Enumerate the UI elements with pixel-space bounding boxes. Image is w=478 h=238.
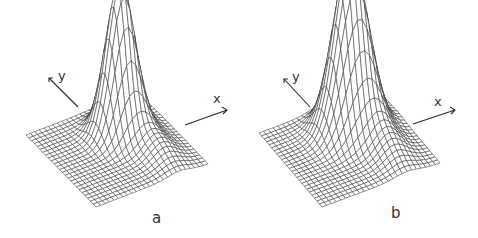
surface-mesh-b bbox=[259, 0, 440, 207]
x-axis-arrow-a bbox=[185, 110, 227, 125]
panel-label-b: b bbox=[391, 204, 401, 222]
surface-plot-a: y x a bbox=[26, 0, 227, 227]
figure: y x a y x b bbox=[0, 0, 478, 238]
surface-mesh-a bbox=[26, 0, 208, 207]
y-axis-label-a: y bbox=[58, 68, 66, 83]
x-axis-label-b: x bbox=[434, 94, 442, 109]
panel-label-a: a bbox=[152, 209, 161, 227]
surface-plot-b: y x b bbox=[259, 0, 455, 222]
x-axis-label-a: x bbox=[213, 91, 221, 106]
y-axis-label-b: y bbox=[292, 69, 300, 84]
x-axis-arrow-b bbox=[413, 110, 455, 124]
